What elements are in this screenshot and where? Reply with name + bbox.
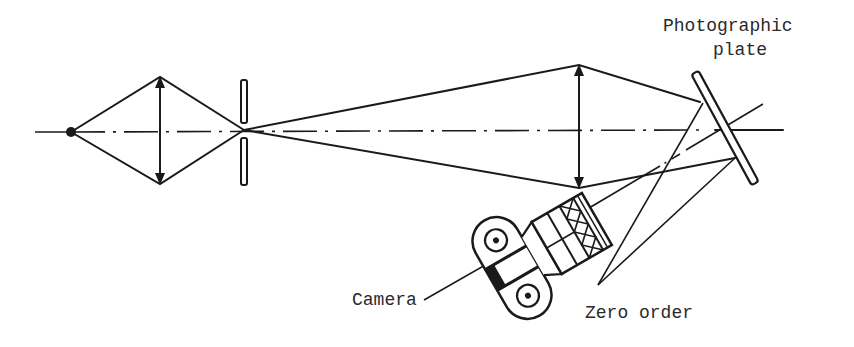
- slit-lower-jaw: [241, 138, 247, 185]
- lens1-arrow-bottom-icon: [155, 173, 165, 185]
- plate-label-line2: plate: [713, 40, 767, 60]
- ray-lower-2: [244, 130, 735, 188]
- plate-label-line1: Photographic: [663, 16, 793, 36]
- camera-axis-lower: [584, 166, 660, 211]
- optical-axis: [71, 130, 700, 132]
- optical-diagram: Photographic plate Camera Zero order: [0, 0, 854, 347]
- zero-order-ray-2: [598, 158, 735, 285]
- ray-upper-2: [244, 65, 700, 130]
- camera-label: Camera: [352, 290, 417, 310]
- lens1-arrow-top-icon: [155, 76, 165, 88]
- slit-upper-jaw: [241, 80, 247, 123]
- zero-order-label: Zero order: [585, 303, 693, 323]
